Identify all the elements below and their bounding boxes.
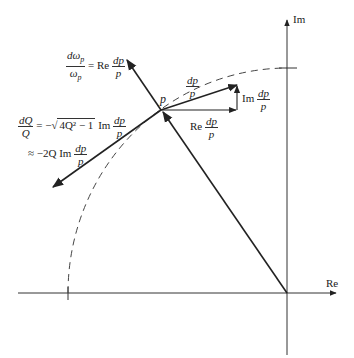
dp-over-p-label: dpp bbox=[186, 74, 199, 99]
diagram-canvas: Im Re p dpp Im dpp Re dpp dωpωp = Re dpp… bbox=[0, 0, 354, 358]
domega-num: dω bbox=[67, 49, 80, 61]
domega-num-sub: p bbox=[80, 55, 84, 64]
frac-den: Q bbox=[18, 127, 33, 139]
dq-eq: = − bbox=[36, 119, 51, 131]
frac-num: dp bbox=[186, 74, 199, 87]
frac-den: p bbox=[74, 155, 87, 167]
frac-num: dp bbox=[257, 87, 270, 100]
im-dp-label: Im dpp bbox=[242, 87, 270, 112]
dq-approx-label: ≈ −2Q Im dpp bbox=[28, 142, 87, 167]
dq-im: Im bbox=[98, 119, 110, 131]
domega-arrow bbox=[127, 60, 161, 110]
frac-num: dp bbox=[74, 142, 87, 155]
frac-den: p bbox=[112, 67, 125, 79]
domega-label: dωpωp = Re dpp bbox=[66, 49, 125, 84]
pole-label: p bbox=[160, 93, 166, 105]
frac-den: ωp bbox=[66, 67, 85, 84]
im-prefix: Im bbox=[242, 92, 254, 104]
imag-axis-label: Im bbox=[293, 14, 305, 25]
frac-den: p bbox=[257, 100, 270, 112]
dq-label: dQQ = −√4Q² − 1 Im dpp bbox=[18, 114, 126, 139]
frac-num: dQ bbox=[18, 114, 33, 127]
diagram-svg bbox=[0, 0, 354, 358]
re-dp-label: Re dpp bbox=[190, 115, 218, 140]
domega-den: ω bbox=[70, 67, 78, 79]
frac-den: p bbox=[113, 127, 126, 139]
frac-den: p bbox=[205, 128, 218, 140]
frac-num: dωp bbox=[66, 49, 85, 67]
re-prefix: Re bbox=[190, 120, 202, 132]
dq-approx-prefix: ≈ −2Q Im bbox=[28, 147, 71, 159]
frac-den: p bbox=[186, 87, 199, 99]
frac-num: dp bbox=[112, 54, 125, 67]
dp-vector bbox=[161, 85, 237, 110]
real-axis-label: Re bbox=[326, 278, 338, 289]
frac-num: dp bbox=[205, 115, 218, 128]
domega-eq: = Re bbox=[88, 59, 109, 71]
frac-num: dp bbox=[113, 114, 126, 127]
sqrt-body: 4Q² − 1 bbox=[57, 118, 95, 131]
domega-den-sub: p bbox=[78, 73, 82, 82]
pole-radius-line bbox=[163, 112, 287, 293]
